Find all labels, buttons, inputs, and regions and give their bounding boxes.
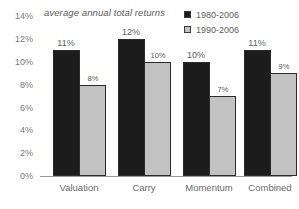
- bar-combined-1980-2006: [244, 50, 271, 176]
- y-axis-tick: 0%: [20, 171, 33, 181]
- y-axis-tick: 14%: [15, 11, 33, 21]
- x-axis-label-carry: Carry: [132, 182, 155, 193]
- y-axis-tick: 10%: [15, 57, 33, 67]
- x-axis-label-valuation: Valuation: [60, 182, 99, 193]
- y-axis-tick: 2%: [20, 148, 33, 158]
- bar-label-valuation-1980-2006: 11%: [57, 38, 74, 48]
- y-axis: 14% 12% 10% 8% 6% 4% 2% 0%: [0, 0, 40, 209]
- bar-momentum-1980-2006: [183, 62, 210, 176]
- bar-group-combined: 11% 9%: [244, 16, 296, 176]
- plot-area: 11% 8% 12% 10% 10% 7% 11% 9%: [40, 16, 292, 176]
- bar-label-combined-1990-2006: 9%: [279, 62, 290, 71]
- y-axis-tick: 12%: [15, 34, 33, 44]
- bar-carry-1980-2006: [118, 39, 145, 176]
- y-axis-tick: 8%: [20, 80, 33, 90]
- x-axis: Valuation Carry Momentum Combined: [40, 182, 292, 202]
- bar-group-momentum: 10% 7%: [183, 16, 235, 176]
- bar-label-combined-1980-2006: 11%: [248, 38, 265, 48]
- y-axis-tick: 4%: [20, 125, 33, 135]
- x-axis-baseline: [40, 176, 292, 177]
- bar-label-carry-1980-2006: 12%: [122, 27, 140, 37]
- bar-group-valuation: 11% 8%: [53, 16, 105, 176]
- bar-label-momentum-1990-2006: 7%: [218, 85, 229, 94]
- bar-momentum-1990-2006: [209, 96, 236, 176]
- bar-valuation-1980-2006: [53, 50, 80, 176]
- bar-combined-1990-2006: [270, 73, 297, 176]
- bar-carry-1990-2006: [144, 62, 171, 176]
- bar-label-valuation-1990-2006: 8%: [88, 74, 99, 83]
- bar-valuation-1990-2006: [79, 85, 106, 176]
- bar-group-carry: 12% 10%: [118, 16, 170, 176]
- bar-label-carry-1990-2006: 10%: [150, 51, 165, 60]
- x-axis-label-combined: Combined: [248, 182, 291, 193]
- bar-chart: average annual total returns 1980-2006 1…: [0, 0, 299, 209]
- bar-label-momentum-1980-2006: 10%: [187, 50, 205, 60]
- y-axis-tick: 6%: [20, 103, 33, 113]
- x-axis-label-momentum: Momentum: [185, 182, 233, 193]
